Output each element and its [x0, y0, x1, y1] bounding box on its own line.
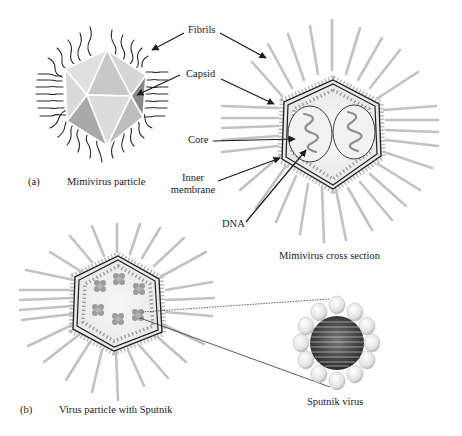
label-capsid: Capsid	[186, 68, 215, 80]
mimivirus-particle-illustration	[36, 27, 168, 162]
caption-virus-with-sputnik: Virus particle with Sputnik	[59, 404, 172, 416]
label-inner-membrane-line1: Inner	[182, 172, 204, 183]
label-fibrils: Fibrils	[188, 24, 215, 36]
capsid-hexagon-b	[72, 255, 163, 352]
label-inner-membrane: Inner membrane	[170, 172, 216, 196]
panel-marker-a: (a)	[28, 176, 40, 188]
mimivirus-diagram: Fibrils Capsid Core Inner membrane DNA (…	[0, 0, 462, 436]
label-inner-membrane-line2: membrane	[171, 184, 215, 195]
label-core: Core	[188, 134, 208, 146]
caption-mimivirus-particle: Mimivirus particle	[67, 176, 145, 188]
panel-marker-b: (b)	[20, 404, 32, 416]
sputnik-virus-illustration	[293, 296, 380, 390]
label-dna: DNA	[222, 218, 245, 230]
caption-mimivirus-cross-section: Mimivirus cross section	[279, 250, 380, 262]
mimivirus-cross-section-illustration	[222, 20, 438, 242]
caption-sputnik-virus: Sputnik virus	[307, 396, 363, 408]
virus-with-sputnik-illustration	[20, 224, 214, 400]
